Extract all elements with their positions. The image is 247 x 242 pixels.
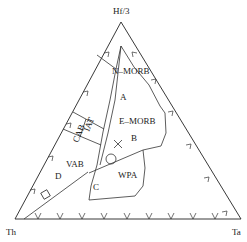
field-label-wpa: WPA (118, 170, 138, 180)
cross-symbol (114, 140, 122, 148)
field-label-vab: VAB (66, 159, 84, 169)
field-label-a: A (120, 92, 127, 102)
right-edge-ticks (132, 52, 227, 216)
vertex-label-left: Th (6, 227, 16, 237)
field-label-c: C (93, 182, 99, 192)
field-label-d: D (55, 171, 62, 181)
vertex-label-top: Hf/3 (113, 6, 130, 16)
ternary-plot: Hf/3 Th Ta N–MORB A E–MORB B WPA C D VAB… (0, 0, 247, 242)
ternary-diagram: Hf/3 Th Ta N–MORB A E–MORB B WPA C D VAB… (0, 0, 247, 242)
bottom-edge-ticks (35, 213, 218, 219)
field-label-b: B (131, 133, 137, 143)
left-edge-ticks (30, 52, 109, 194)
field-label-n-morb: N–MORB (112, 66, 150, 76)
field-label-e-morb: E–MORB (119, 116, 156, 126)
vertex-label-right: Ta (232, 227, 241, 237)
circle-symbol (106, 154, 116, 164)
square-symbol (41, 190, 51, 200)
